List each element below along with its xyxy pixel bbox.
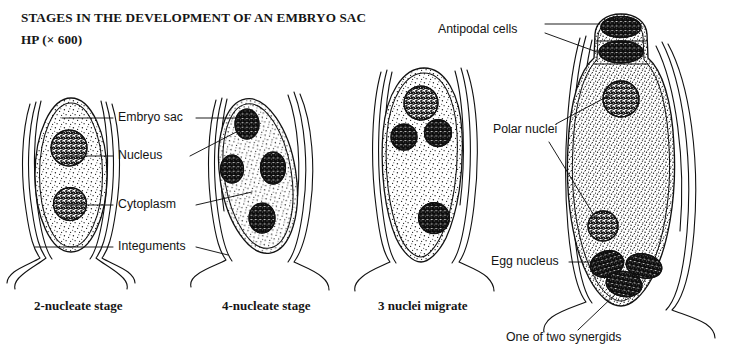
leader-antipodal-lower <box>545 33 597 52</box>
label-one-of-two-synergids: One of two synergids <box>506 330 622 344</box>
label-nucleus: Nucleus <box>118 148 162 162</box>
figure-title: STAGES IN THE DEVELOPMENT OF AN EMBRYO S… <box>21 10 366 26</box>
stage-three-nuclei-migrate <box>355 68 494 291</box>
stage-two-nucleate <box>7 98 135 289</box>
label-cytoplasm: Cytoplasm <box>118 197 176 211</box>
leader-lines <box>35 24 622 330</box>
caption-three-nuclei-migrate: 3 nuclei migrate <box>378 298 468 314</box>
stage-four-nucleate <box>191 92 329 290</box>
label-embryo-sac: Embryo sac <box>118 110 183 124</box>
caption-two-nucleate-stage: 2-nucleate stage <box>34 298 122 314</box>
leader-integuments-right <box>196 247 228 255</box>
label-egg-nucleus: Egg nucleus <box>491 254 559 268</box>
caption-four-nucleate-stage: 4-nucleate stage <box>222 298 310 314</box>
label-integuments: Integuments <box>118 239 186 253</box>
figure-magnification: HP (× 600) <box>21 32 82 48</box>
polar-nucleus-upper <box>603 81 639 117</box>
label-antipodal-cells: Antipodal cells <box>438 22 517 36</box>
label-polar-nuclei: Polar nuclei <box>493 122 557 136</box>
embryo-sac-figure: STAGES IN THE DEVELOPMENT OF AN EMBRYO S… <box>0 0 735 357</box>
polar-nucleus-lower <box>588 211 618 241</box>
